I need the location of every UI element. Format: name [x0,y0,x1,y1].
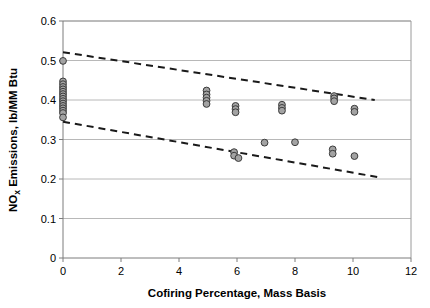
y-tick-label: 0.4 [41,94,56,106]
x-tick-label: 8 [292,265,298,277]
data-point [292,139,299,146]
x-tick-label: 0 [60,265,66,277]
y-tick-label: 0.3 [41,134,56,146]
x-tick-label: 10 [347,265,359,277]
x-tick-label: 4 [176,265,182,277]
y-tick-label: 0.2 [41,173,56,185]
data-point [60,114,67,121]
x-tick-label: 12 [405,265,417,277]
data-point [261,139,268,146]
data-point [279,107,286,114]
y-tick-label: 0 [50,252,56,264]
chart-canvas: 00.10.20.30.40.50.6 024681012 Cofiring P… [0,0,430,308]
x-axis-title: Cofiring Percentage, Mass Basis [148,287,326,299]
x-axis-ticks: 024681012 [60,258,417,277]
x-tick-label: 6 [234,265,240,277]
data-point [235,155,242,162]
data-point [331,98,338,105]
y-tick-label: 0.6 [41,15,56,27]
data-point [329,150,336,157]
data-point [351,153,358,160]
data-point [351,108,358,115]
scatter-chart: 00.10.20.30.40.50.6 024681012 Cofiring P… [0,0,430,308]
x-tick-label: 2 [118,265,124,277]
y-axis-title: NOx Emissions, lb/MM Btu [7,68,22,212]
data-point [203,101,210,108]
data-point [60,58,67,65]
y-tick-label: 0.5 [41,55,56,67]
y-axis-ticks: 00.10.20.30.40.50.6 [41,15,63,264]
y-tick-label: 0.1 [41,213,56,225]
data-point [232,109,239,116]
